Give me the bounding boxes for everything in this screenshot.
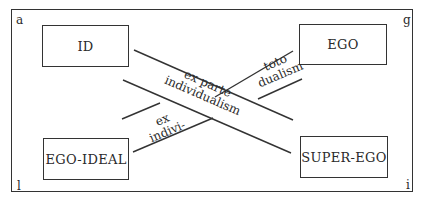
- super-ego-box: SUPER-EGO: [300, 136, 388, 178]
- id-box-label: ID: [77, 39, 93, 54]
- id-box: ID: [42, 25, 129, 67]
- ego-ideal-box-label: EGO-IDEAL: [45, 152, 126, 167]
- ego-box-label: EGO: [327, 37, 358, 52]
- ego-box: EGO: [299, 24, 387, 65]
- ego-ideal-box: EGO-IDEAL: [43, 138, 129, 180]
- super-ego-box-label: SUPER-EGO: [301, 150, 387, 165]
